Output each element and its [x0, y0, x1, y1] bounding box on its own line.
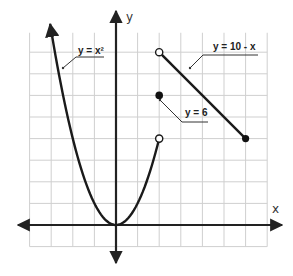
- annotation-label: y = x²: [78, 45, 105, 56]
- open-endpoint: [156, 49, 163, 56]
- grid-lines: [30, 33, 268, 247]
- closed-point: [155, 92, 163, 100]
- annotation-label: y = 10 - x: [213, 41, 256, 52]
- leader-dot: [189, 67, 191, 69]
- x-axis-label: x: [272, 202, 279, 216]
- leader-dot: [159, 99, 161, 101]
- piecewise-function-graph: y = x²y = 10 - xy = 6 x y: [0, 0, 293, 276]
- y-axis-label: y: [126, 10, 133, 24]
- annotation-label: y = 6: [185, 107, 208, 118]
- leader-dot: [62, 67, 64, 69]
- leader-line: [63, 57, 104, 68]
- open-endpoint: [156, 135, 163, 142]
- closed-endpoint: [242, 135, 249, 142]
- parabola-curve: [50, 24, 159, 225]
